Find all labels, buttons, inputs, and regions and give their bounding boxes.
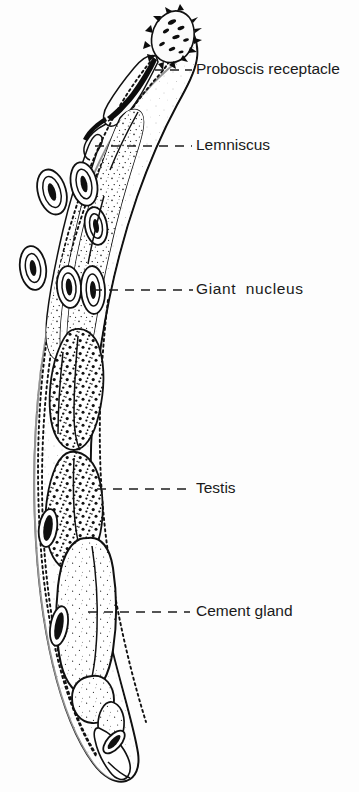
label-proboscis-receptacle: Proboscis receptacle: [196, 60, 340, 77]
giant-nucleus-1: [32, 166, 72, 218]
label-testis: Testis: [196, 479, 236, 496]
anatomy-figure: Proboscis receptacle Lemniscus Giant nuc…: [0, 0, 359, 792]
giant-nucleus-3: [17, 244, 49, 291]
giant-nuclei: [17, 160, 110, 315]
label-lemniscus: Lemniscus: [196, 136, 270, 153]
anatomy-diagram-canvas: Proboscis receptacle Lemniscus Giant nuc…: [0, 0, 359, 792]
label-cement-gland: Cement gland: [196, 602, 293, 619]
label-giant-nucleus: Giant nucleus: [196, 280, 304, 297]
label-texts: Proboscis receptacle Lemniscus Giant nuc…: [196, 60, 340, 619]
